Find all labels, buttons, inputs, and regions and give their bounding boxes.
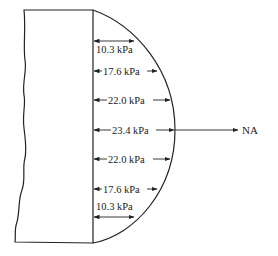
stress-label-5: 22.0 kPa <box>108 154 145 165</box>
stress-diagram: 10.3 kPa 17.6 kPa 22.0 kPa 23.4 kPa 22.0… <box>0 0 278 256</box>
stress-label-3: 22.0 kPa <box>108 95 145 106</box>
stress-label-4: 23.4 kPa <box>112 125 149 136</box>
beam-section <box>15 10 93 243</box>
stress-label-1: 10.3 kPa <box>96 44 133 55</box>
stress-label-6: 17.6 kPa <box>103 184 140 195</box>
diagram-svg: 10.3 kPa 17.6 kPa 22.0 kPa 23.4 kPa 22.0… <box>0 0 278 256</box>
stress-label-7: 10.3 kPa <box>96 201 133 212</box>
stress-label-2: 17.6 kPa <box>103 66 140 77</box>
neutral-axis-label: NA <box>242 124 258 136</box>
